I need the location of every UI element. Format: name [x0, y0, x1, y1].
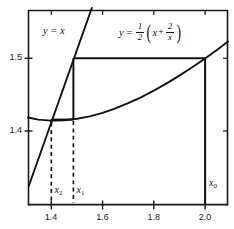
- formula-half-denominator: 2: [136, 33, 145, 42]
- y-tick-label-1-4: 1.4: [0, 125, 22, 135]
- iteration-function-curve: [28, 42, 228, 121]
- formula-plus-sign: +: [158, 27, 163, 37]
- x2-label: x2: [55, 184, 63, 197]
- formula-y: y: [119, 27, 124, 38]
- formula-equals: =: [126, 27, 133, 38]
- x1-label: x1: [77, 184, 85, 197]
- x-tick-label-1-6: 1.6: [88, 212, 118, 222]
- identity-line-label: y = x: [43, 25, 65, 36]
- formula-open-paren: (: [147, 23, 152, 42]
- cobweb-diagram-figure: 1.5 1.4 1.4 1.6 1.8 2.0 x2 x1 x0 y = x y…: [0, 0, 234, 229]
- x0-label-sub: 0: [213, 182, 217, 190]
- x-tick-label-2-0: 2.0: [190, 212, 220, 222]
- formula-one-half: 1 2: [136, 22, 145, 42]
- formula-frac-numerator: 2: [166, 22, 175, 31]
- formula-variable-x: x: [153, 27, 158, 38]
- formula-half-numerator: 1: [136, 22, 145, 31]
- x-tick-label-1-4: 1.4: [36, 212, 66, 222]
- x2-label-sub: 2: [59, 189, 63, 197]
- x0-label: x0: [209, 177, 217, 190]
- x-tick-label-1-8: 1.8: [139, 212, 169, 222]
- formula-frac-denominator: x: [166, 33, 174, 42]
- formula-close-paren: ): [177, 23, 182, 42]
- plot-canvas: [0, 0, 234, 229]
- formula-two-over-x: 2 x: [166, 22, 175, 42]
- y-tick-label-1-5: 1.5: [0, 52, 22, 62]
- newton-cobweb-path: [51, 58, 205, 204]
- x1-label-sub: 1: [81, 189, 85, 197]
- iteration-function-label: y = 1 2 ( x + 2 x ): [119, 22, 182, 42]
